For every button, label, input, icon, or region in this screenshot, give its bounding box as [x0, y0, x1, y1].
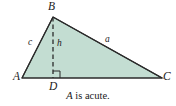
side-label-a: a — [105, 35, 110, 45]
geometry-figure: B A C D c a h A is acute. — [0, 0, 176, 106]
side-label-c: c — [28, 38, 32, 48]
vertex-label-c: C — [163, 71, 171, 83]
vertex-label-b: B — [48, 1, 55, 13]
altitude-label-h: h — [57, 39, 62, 49]
figure-caption: A is acute. — [0, 90, 176, 102]
caption-text: is acute. — [73, 90, 110, 101]
triangle-abc-shape — [22, 17, 162, 78]
vertex-label-a: A — [13, 71, 20, 83]
